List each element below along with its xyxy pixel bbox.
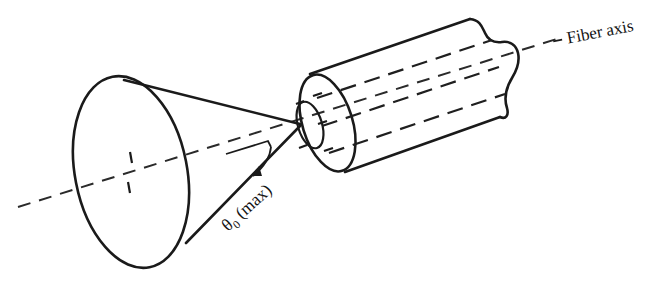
acceptance-angle-label: θ0 (max): [217, 180, 277, 237]
fiber-acceptance-cone-figure: θ0 (max) Fiber axis: [0, 0, 664, 287]
acceptance-angle-arrow: [226, 141, 271, 176]
cone-upper-edge: [124, 80, 300, 124]
fiber-core-hidden-lines: [317, 40, 505, 153]
theta-max-text: (max): [231, 180, 276, 223]
cone-lower-edge: [186, 126, 300, 243]
acceptance-cone: [58, 66, 300, 278]
fiber-axis-label: Fiber axis: [565, 16, 635, 48]
svg-text:θ0 (max): θ0 (max): [217, 180, 277, 237]
fiber-axis-label-group: Fiber axis: [551, 16, 635, 50]
